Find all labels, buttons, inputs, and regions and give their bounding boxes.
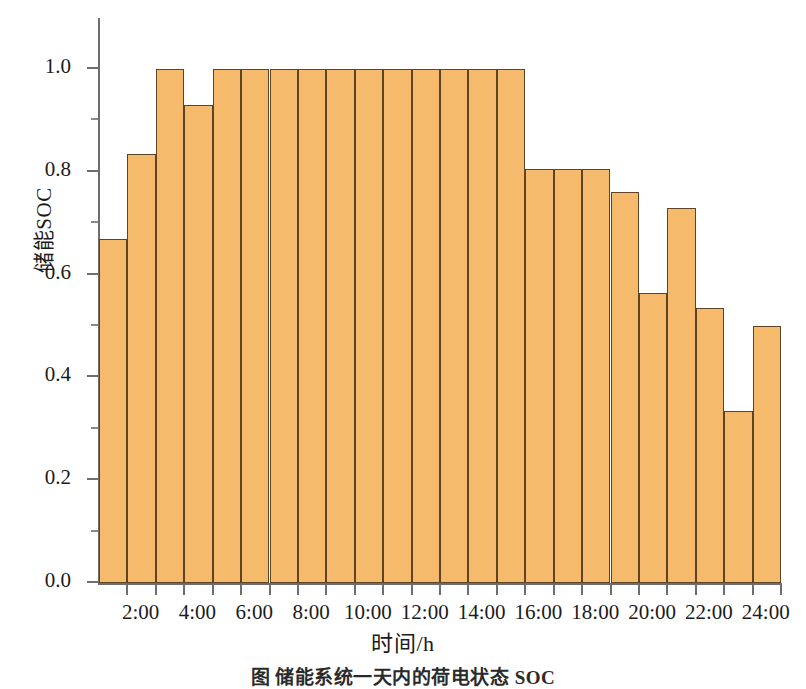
y-tick-label: 0.8	[45, 157, 71, 182]
bar	[241, 69, 269, 583]
x-tick	[780, 585, 782, 595]
y-tick-major: 1.0	[87, 67, 98, 69]
y-tick-minor	[91, 427, 98, 429]
x-tick	[354, 585, 356, 595]
x-tick	[638, 585, 640, 595]
x-tick-label: 2:00	[122, 600, 159, 625]
bar	[696, 308, 724, 583]
bar	[213, 69, 241, 583]
x-tick	[240, 585, 242, 595]
x-tick	[411, 585, 413, 595]
x-tick-label: 18:00	[571, 600, 619, 625]
x-tick	[297, 585, 299, 595]
bar	[582, 169, 610, 583]
x-tick-label: 22:00	[685, 600, 733, 625]
x-tick-label: 8:00	[292, 600, 329, 625]
plot-area: 0.00.20.40.60.81.0 2:004:006:008:0010:00…	[98, 18, 780, 585]
bar	[412, 69, 440, 583]
y-tick-minor	[91, 324, 98, 326]
x-tick	[553, 585, 555, 595]
x-tick	[666, 585, 668, 595]
x-tick-label: 14:00	[458, 600, 506, 625]
x-tick	[581, 585, 583, 595]
y-tick-minor	[91, 530, 98, 532]
bar	[298, 69, 326, 583]
x-tick-label: 24:00	[742, 600, 790, 625]
x-tick	[524, 585, 526, 595]
y-tick-label: 0.4	[45, 362, 71, 387]
y-tick-major: 0.0	[87, 581, 98, 583]
x-tick	[752, 585, 754, 595]
bar	[156, 69, 184, 583]
x-tick	[695, 585, 697, 595]
x-tick	[382, 585, 384, 595]
x-tick	[610, 585, 612, 595]
y-tick-minor	[91, 118, 98, 120]
y-tick-major: 0.8	[87, 170, 98, 172]
y-tick-major: 0.6	[87, 273, 98, 275]
bar	[525, 169, 553, 583]
bar	[270, 69, 298, 583]
bar	[639, 293, 667, 583]
figure-caption: 图 储能系统一天内的荷电状态 SOC	[0, 662, 806, 689]
x-tick	[467, 585, 469, 595]
x-axis-title: 时间/h	[0, 625, 806, 657]
bar	[127, 154, 155, 583]
x-tick	[126, 585, 128, 595]
x-tick	[269, 585, 271, 595]
x-tick-label: 6:00	[236, 600, 273, 625]
x-tick	[723, 585, 725, 595]
y-tick-minor	[91, 221, 98, 223]
y-tick-major: 0.2	[87, 478, 98, 480]
y-tick-major: 0.4	[87, 375, 98, 377]
x-tick	[325, 585, 327, 595]
x-tick	[212, 585, 214, 595]
x-tick-label: 12:00	[401, 600, 449, 625]
bar	[440, 69, 468, 583]
y-tick-label: 1.0	[45, 54, 71, 79]
bar	[753, 326, 781, 583]
x-tick	[155, 585, 157, 595]
bar	[468, 69, 496, 583]
bar	[355, 69, 383, 583]
x-tick	[439, 585, 441, 595]
x-tick-label: 16:00	[515, 600, 563, 625]
bar-series	[99, 18, 781, 583]
bar	[326, 69, 354, 583]
x-tick	[183, 585, 185, 595]
y-tick-label: 0.0	[45, 568, 71, 593]
x-tick-label: 20:00	[628, 600, 676, 625]
bar	[497, 69, 525, 583]
bar	[383, 69, 411, 583]
y-tick-label: 0.6	[45, 260, 71, 285]
y-tick-label: 0.2	[45, 465, 71, 490]
bar	[554, 169, 582, 583]
bar	[184, 105, 212, 583]
x-tick	[496, 585, 498, 595]
bar	[724, 411, 752, 583]
bar	[667, 208, 695, 583]
bar	[611, 192, 639, 583]
bar	[99, 239, 127, 583]
x-tick-label: 10:00	[344, 600, 392, 625]
x-tick-label: 4:00	[179, 600, 216, 625]
